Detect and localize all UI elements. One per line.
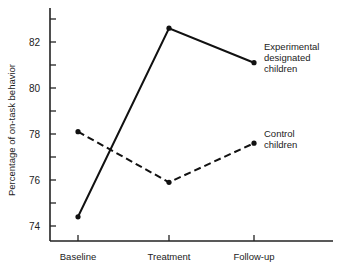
x-category-label: Treatment <box>148 251 191 262</box>
y-tick-label: 80 <box>29 83 41 94</box>
experimental-series-label: Experimentaldesignatedchildren <box>264 41 319 74</box>
y-tick-label: 76 <box>29 175 41 186</box>
data-point <box>166 26 171 31</box>
series-group <box>75 26 256 220</box>
control-line <box>78 132 254 183</box>
data-point <box>75 129 80 134</box>
line-chart: 7476788082BaselineTreatmentFollow-upPerc… <box>0 0 339 269</box>
labels-group: ExperimentaldesignatedchildrenControlchi… <box>264 41 319 151</box>
y-tick-label: 78 <box>29 129 41 140</box>
x-category-label: Baseline <box>60 251 96 262</box>
data-point <box>75 214 80 219</box>
control-series-label: Controlchildren <box>264 128 297 150</box>
y-tick-label: 74 <box>29 221 41 232</box>
y-axis-label: Percentage of on-task behavior <box>6 64 17 196</box>
data-point <box>166 180 171 185</box>
y-tick-label: 82 <box>29 37 41 48</box>
experimental-line <box>78 28 254 217</box>
data-point <box>251 60 256 65</box>
x-category-label: Follow-up <box>233 251 274 262</box>
data-point <box>251 141 256 146</box>
